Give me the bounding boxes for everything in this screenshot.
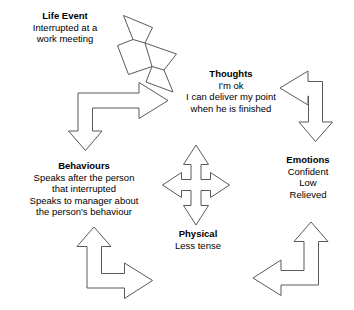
node-behaviours-line-4: the person's behaviour — [4, 206, 164, 217]
elbow-arrow-up-right-icon — [77, 227, 153, 299]
elbow-arrow-up-left-icon — [253, 222, 328, 296]
node-thoughts-line-3: when he is finished — [158, 103, 304, 114]
node-emotions-line-1: Confident — [262, 166, 354, 177]
four-way-arrow-icon — [163, 145, 230, 225]
node-physical-line-1: Less tense — [152, 240, 244, 251]
node-behaviours-line-2: that interrupted — [4, 183, 164, 194]
node-physical-title: Physical — [152, 228, 244, 239]
cbt-cycle-diagram: Life Event Interrupted at a work meeting… — [0, 0, 354, 310]
node-physical: Physical Less tense — [152, 228, 244, 251]
node-thoughts: Thoughts I'm ok I can deliver my point w… — [158, 68, 304, 114]
node-life-event-line-1: Interrupted at a — [4, 22, 126, 33]
node-emotions: Emotions Confident Low Relieved — [262, 154, 354, 200]
node-emotions-title: Emotions — [262, 154, 354, 165]
node-emotions-line-3: Relieved — [262, 189, 354, 200]
node-thoughts-title: Thoughts — [158, 68, 304, 79]
node-life-event-line-2: work meeting — [4, 33, 126, 44]
node-behaviours-line-3: Speaks to manager about — [4, 195, 164, 206]
node-behaviours: Behaviours Speaks after the person that … — [4, 160, 164, 217]
node-behaviours-title: Behaviours — [4, 160, 164, 171]
node-life-event-title: Life Event — [4, 10, 126, 21]
node-life-event: Life Event Interrupted at a work meeting — [4, 10, 126, 45]
node-thoughts-line-1: I'm ok — [158, 80, 304, 91]
node-thoughts-line-2: I can deliver my point — [158, 91, 304, 102]
node-emotions-line-2: Low — [262, 177, 354, 188]
elbow-arrow-right-down-icon — [69, 83, 169, 151]
node-behaviours-line-1: Speaks after the person — [4, 172, 164, 183]
